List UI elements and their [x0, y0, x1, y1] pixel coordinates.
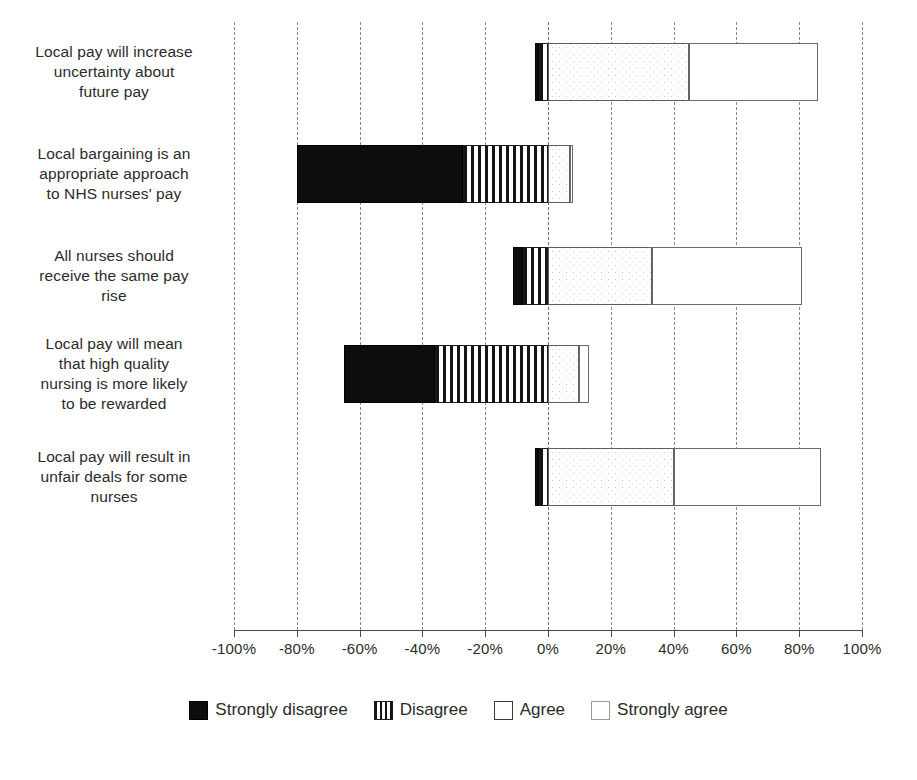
bar-segment-strongly-agree — [652, 247, 803, 305]
legend-swatch-icon — [494, 701, 513, 720]
survey-bar-chart: Local pay will increaseuncertainty about… — [0, 0, 917, 780]
x-tick — [234, 630, 235, 637]
gridline--60 — [360, 22, 361, 630]
bar-segment-strongly-agree — [689, 43, 818, 101]
x-tick — [485, 630, 486, 637]
gridline--100 — [234, 22, 235, 630]
bar-segment-agree — [548, 247, 652, 305]
legend-label: Disagree — [400, 700, 468, 720]
gridline-60 — [736, 22, 737, 630]
gridline-0 — [548, 22, 549, 630]
bar-segment-strongly-disagree — [513, 247, 522, 305]
bar-segment-strongly-agree — [579, 345, 588, 403]
x-tick — [799, 630, 800, 637]
bar-segment-agree — [548, 145, 570, 203]
x-tick-label: 0% — [513, 640, 583, 657]
x-tick-label: 80% — [764, 640, 834, 657]
bar-segment-agree — [548, 345, 579, 403]
x-tick — [360, 630, 361, 637]
gridline--20 — [485, 22, 486, 630]
legend-label: Agree — [520, 700, 565, 720]
chart-legend: Strongly disagreeDisagreeAgreeStrongly a… — [0, 700, 917, 720]
bar-segment-strongly-agree — [570, 145, 573, 203]
legend-swatch-icon — [591, 701, 610, 720]
legend-label: Strongly disagree — [215, 700, 347, 720]
bar-row — [0, 247, 917, 305]
legend-item-d[interactable]: Disagree — [374, 700, 468, 720]
bar-segment-disagree — [539, 448, 548, 506]
plot-area — [234, 22, 862, 630]
x-tick — [548, 630, 549, 637]
x-tick — [674, 630, 675, 637]
bar-segment-agree — [548, 43, 689, 101]
bar-segment-disagree — [463, 145, 548, 203]
gridline--40 — [422, 22, 423, 630]
gridline-100 — [862, 22, 863, 630]
bar-segment-disagree — [435, 345, 548, 403]
x-tick — [862, 630, 863, 637]
gridline-80 — [799, 22, 800, 630]
gridline-40 — [674, 22, 675, 630]
legend-item-a[interactable]: Agree — [494, 700, 565, 720]
x-tick-label: 40% — [639, 640, 709, 657]
x-tick-label: -60% — [325, 640, 395, 657]
x-tick-label: -20% — [450, 640, 520, 657]
legend-item-sa[interactable]: Strongly agree — [591, 700, 728, 720]
x-tick — [611, 630, 612, 637]
x-tick-label: 100% — [827, 640, 897, 657]
x-tick — [297, 630, 298, 637]
bar-segment-disagree — [539, 43, 548, 101]
x-tick-label: -80% — [262, 640, 332, 657]
bar-row — [0, 145, 917, 203]
x-tick-label: 60% — [701, 640, 771, 657]
x-tick-label: 20% — [576, 640, 646, 657]
bar-segment-disagree — [523, 247, 548, 305]
bar-segment-strongly-agree — [674, 448, 822, 506]
bar-row — [0, 345, 917, 403]
legend-item-sd[interactable]: Strongly disagree — [189, 700, 347, 720]
bar-row — [0, 448, 917, 506]
x-tick — [422, 630, 423, 637]
bar-segment-strongly-disagree — [297, 145, 463, 203]
bar-segment-agree — [548, 448, 674, 506]
legend-label: Strongly agree — [617, 700, 728, 720]
legend-swatch-icon — [189, 701, 208, 720]
legend-swatch-icon — [374, 701, 393, 720]
bar-row — [0, 43, 917, 101]
gridline--80 — [297, 22, 298, 630]
x-tick-label: -40% — [387, 640, 457, 657]
x-tick — [736, 630, 737, 637]
gridline-20 — [611, 22, 612, 630]
x-tick-label: -100% — [199, 640, 269, 657]
bar-segment-strongly-disagree — [344, 345, 435, 403]
